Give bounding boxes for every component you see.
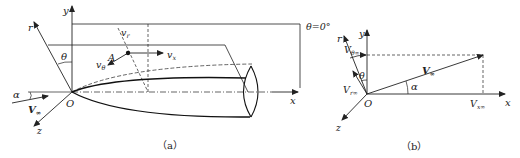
theta-label-b: θ bbox=[359, 70, 365, 81]
vx-inf-label: Vx∞ bbox=[470, 98, 485, 110]
caption-b: （b） bbox=[401, 141, 427, 152]
y-label: y bbox=[62, 5, 69, 16]
vx-label: vx bbox=[167, 49, 176, 62]
origin-label-b: O bbox=[364, 98, 372, 109]
theta-label: θ bbox=[61, 51, 67, 62]
alpha-label-b: α bbox=[411, 81, 418, 92]
body-lower-contour bbox=[72, 92, 250, 117]
alpha-label: α bbox=[13, 89, 20, 100]
v-inf-label: V∞ bbox=[28, 104, 41, 117]
body-upper-contour bbox=[72, 78, 246, 92]
y-label-b: y bbox=[358, 28, 365, 39]
r-label: r bbox=[28, 22, 34, 33]
figure-a: y r θ θ=0° x A vx bbox=[12, 5, 330, 151]
x-label-b: x bbox=[505, 97, 511, 108]
caption-a: （a） bbox=[157, 140, 183, 151]
v-inf-label-b: V∞ bbox=[422, 65, 435, 77]
alpha-arc-b bbox=[406, 81, 408, 94]
theta-arc bbox=[58, 62, 72, 64]
z-label-b: z bbox=[335, 123, 341, 133]
origin-label: O bbox=[66, 98, 74, 109]
z-label: z bbox=[36, 126, 42, 136]
figure-b: y r Vθ∞ Vr∞ θ V∞ α x Vx∞ O z bbox=[335, 28, 511, 152]
alpha-arc bbox=[30, 92, 31, 99]
base-ellipse-right bbox=[251, 66, 258, 117]
base-ellipse-left bbox=[244, 66, 252, 117]
theta-zero-label: θ=0° bbox=[306, 21, 330, 32]
x-label: x bbox=[290, 95, 296, 106]
vtheta-label: vθ bbox=[96, 59, 105, 72]
vtheta-inf-label: Vθ∞ bbox=[344, 44, 360, 56]
r-label-b: r bbox=[337, 33, 343, 44]
vr-inf-label: Vr∞ bbox=[343, 84, 358, 96]
